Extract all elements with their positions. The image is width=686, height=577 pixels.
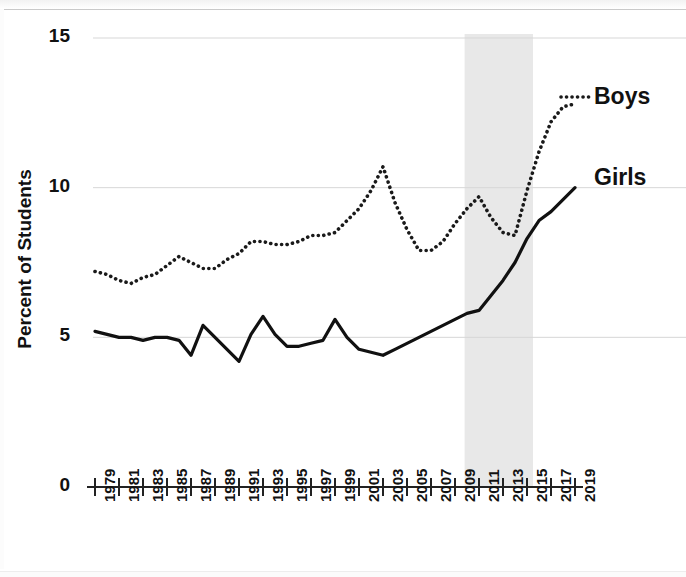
x-tick-label: 2005	[413, 469, 430, 502]
series-label-boys: Boys	[594, 83, 650, 110]
x-tick-label: 2003	[389, 469, 406, 502]
x-tick-label: 2001	[365, 469, 382, 502]
x-tick-label: 1991	[245, 469, 262, 502]
chart-plot-area: Percent of Students 051015 1979198119831…	[0, 0, 686, 577]
x-tick-label: 2017	[557, 469, 574, 502]
x-tick-label: 2019	[581, 469, 598, 502]
x-tick-label: 2015	[533, 469, 550, 502]
x-tick-label: 2009	[461, 469, 478, 502]
chart-root: Percent of Students 051015 1979198119831…	[0, 0, 686, 577]
x-tick-label: 1997	[317, 469, 334, 502]
y-tick-label: 0	[24, 474, 70, 496]
shaded-region	[465, 34, 533, 487]
y-tick-label: 10	[24, 175, 70, 197]
y-tick-label: 5	[24, 324, 70, 346]
x-tick-label: 1985	[173, 469, 190, 502]
x-tick-label: 2007	[437, 469, 454, 502]
x-tick-label: 1981	[125, 469, 142, 502]
x-tick-label: 1993	[269, 469, 286, 502]
y-tick-label: 15	[24, 25, 70, 47]
x-tick-label: 1989	[221, 469, 238, 502]
x-tick-label: 1987	[197, 469, 214, 502]
x-tick-label: 2013	[509, 469, 526, 502]
series-label-girls: Girls	[594, 164, 646, 191]
x-tick-label: 2011	[485, 469, 502, 502]
x-tick-label: 1999	[341, 469, 358, 502]
x-tick-label: 1979	[101, 469, 118, 502]
x-tick-label: 1983	[149, 469, 166, 502]
x-tick-label: 1995	[293, 469, 310, 502]
